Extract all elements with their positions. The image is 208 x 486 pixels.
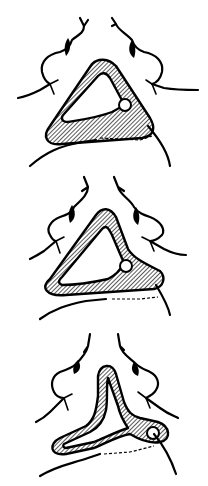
left-branch-spur — [64, 394, 72, 410]
hatched-loop-triangular — [46, 60, 153, 145]
left-branch-spur — [56, 237, 64, 253]
right-branch-spur — [142, 237, 154, 251]
diagram-panel-1-drawing — [0, 0, 208, 170]
left-branch-spur — [50, 80, 58, 94]
diagram-panel-3 — [0, 326, 208, 486]
diagram-panel-2 — [0, 165, 208, 325]
small-circle — [119, 99, 131, 111]
right-shade — [132, 362, 139, 376]
hatched-loop-elongated — [52, 366, 168, 454]
dashed-line — [104, 446, 154, 454]
small-circle — [120, 260, 132, 272]
hatched-loop-narrowed — [45, 209, 163, 295]
left-shade — [73, 360, 80, 374]
right-shade — [133, 207, 139, 225]
diagram-panel-3-drawing — [0, 326, 208, 486]
left-shade — [65, 38, 70, 56]
diagram-panel-2-drawing — [0, 165, 208, 325]
right-branch-outline — [118, 334, 178, 418]
dashed-line — [112, 297, 158, 299]
base-curve-left — [40, 454, 100, 476]
base-curve-left — [40, 299, 106, 319]
diagram-panel-1 — [0, 0, 208, 170]
right-shade — [129, 40, 135, 58]
left-branch-outline — [36, 334, 90, 422]
base-curve-right — [156, 285, 170, 315]
